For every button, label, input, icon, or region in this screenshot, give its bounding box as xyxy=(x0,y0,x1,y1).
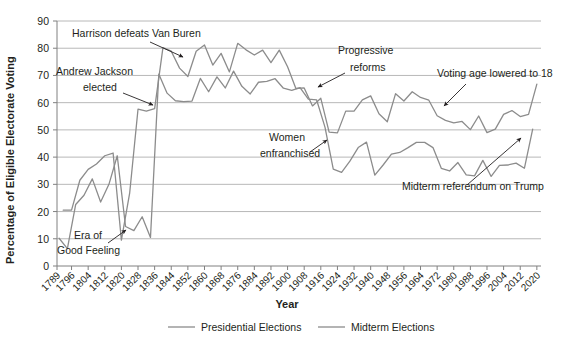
annotation-women-line1: Women xyxy=(269,131,305,143)
y-tick-label: 10 xyxy=(37,233,49,245)
annotation-progressive-line2: reforms xyxy=(350,61,386,73)
y-tick-label: 60 xyxy=(37,97,49,109)
chart-container: Percentage of Eligible Electorate Voting… xyxy=(0,0,573,342)
chart-legend: Presidential Elections Midterm Elections xyxy=(168,321,434,333)
x-axis-title: Year xyxy=(275,298,299,310)
y-tick-label: 90 xyxy=(37,15,49,27)
annotation-progressive-line1: Progressive xyxy=(338,44,394,56)
annotation-era-line2: Good Feeling xyxy=(57,244,120,256)
annotation-trump: Midterm referendum on Trump xyxy=(402,180,544,192)
legend-label-midterm: Midterm Elections xyxy=(351,321,434,333)
voter-turnout-line-chart: Percentage of Eligible Electorate Voting… xyxy=(0,0,573,342)
legend-label-presidential: Presidential Elections xyxy=(201,321,301,333)
annotation-women-line2: enfranchised xyxy=(260,147,320,159)
annotation-era-line1: Era of xyxy=(74,229,102,241)
chart-background xyxy=(0,0,573,342)
annotation-voting-age: Voting age lowered to 18 xyxy=(437,67,553,79)
y-tick-label: 80 xyxy=(37,42,49,54)
y-tick-label: 0 xyxy=(43,260,49,272)
y-axis-title: Percentage of Eligible Electorate Voting xyxy=(4,56,16,264)
y-tick-label: 40 xyxy=(37,151,49,163)
annotation-harrison: Harrison defeats Van Buren xyxy=(72,27,201,39)
y-tick-label: 50 xyxy=(37,124,49,136)
y-tick-label: 70 xyxy=(37,69,49,81)
annotation-jackson-line2: elected xyxy=(83,81,117,93)
annotation-jackson-line1: Andrew Jackson xyxy=(56,65,133,77)
y-tick-label: 30 xyxy=(37,178,49,190)
y-tick-label: 20 xyxy=(37,206,49,218)
